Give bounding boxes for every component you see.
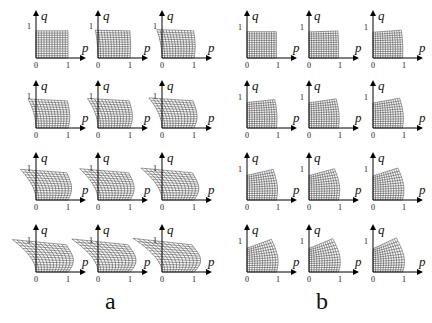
svg-text:1: 1 (89, 236, 93, 245)
svg-text:1: 1 (300, 23, 304, 32)
svg-text:0: 0 (160, 131, 164, 140)
svg-text:1: 1 (89, 22, 93, 31)
svg-text:1: 1 (153, 22, 157, 31)
svg-text:1: 1 (128, 61, 132, 70)
svg-text:p: p (354, 254, 362, 269)
svg-text:0: 0 (160, 203, 164, 212)
svg-text:p: p (143, 254, 151, 269)
svg-text:1: 1 (27, 92, 31, 101)
svg-text:1: 1 (153, 164, 157, 173)
svg-text:p: p (81, 182, 89, 197)
svg-text:1: 1 (192, 131, 196, 140)
svg-text:1: 1 (338, 203, 342, 212)
svg-text:1: 1 (128, 131, 132, 140)
svg-text:q: q (314, 78, 321, 93)
svg-text:p: p (81, 110, 89, 125)
svg-text:1: 1 (192, 275, 196, 284)
svg-text:0: 0 (307, 275, 311, 284)
svg-text:0: 0 (96, 61, 100, 70)
svg-text:p: p (418, 110, 426, 125)
svg-text:p: p (354, 182, 362, 197)
svg-text:q: q (378, 150, 385, 165)
svg-text:1: 1 (192, 203, 196, 212)
svg-text:q: q (378, 8, 385, 23)
svg-text:1: 1 (66, 131, 70, 140)
svg-text:1: 1 (276, 275, 280, 284)
svg-text:1: 1 (300, 165, 304, 174)
svg-text:q: q (167, 222, 174, 237)
svg-text:q: q (167, 8, 174, 23)
svg-text:p: p (207, 182, 215, 197)
svg-text:1: 1 (66, 61, 70, 70)
svg-text:1: 1 (364, 23, 368, 32)
svg-text:p: p (292, 254, 300, 269)
svg-text:p: p (143, 40, 151, 55)
svg-text:0: 0 (245, 61, 249, 70)
svg-text:0: 0 (96, 275, 100, 284)
svg-text:1: 1 (402, 203, 406, 212)
svg-text:1: 1 (27, 164, 31, 173)
svg-text:0: 0 (371, 61, 375, 70)
svg-text:1: 1 (276, 203, 280, 212)
svg-text:1: 1 (300, 93, 304, 102)
svg-text:1: 1 (89, 164, 93, 173)
figure: pq011pq011pq011pq011pq011pq011pq011pq011… (0, 0, 432, 323)
svg-text:q: q (314, 150, 321, 165)
svg-text:1: 1 (300, 237, 304, 246)
svg-text:q: q (41, 222, 48, 237)
svg-text:0: 0 (96, 203, 100, 212)
svg-text:p: p (207, 254, 215, 269)
svg-text:1: 1 (338, 61, 342, 70)
svg-text:1: 1 (153, 92, 157, 101)
svg-text:q: q (378, 222, 385, 237)
svg-text:1: 1 (27, 236, 31, 245)
svg-text:p: p (143, 110, 151, 125)
svg-text:q: q (252, 78, 259, 93)
svg-text:p: p (292, 110, 300, 125)
svg-text:0: 0 (245, 275, 249, 284)
svg-text:p: p (207, 40, 215, 55)
svg-text:0: 0 (34, 203, 38, 212)
svg-text:0: 0 (371, 275, 375, 284)
svg-text:p: p (81, 254, 89, 269)
svg-text:1: 1 (238, 93, 242, 102)
svg-text:p: p (81, 40, 89, 55)
svg-text:q: q (41, 150, 48, 165)
svg-text:p: p (418, 254, 426, 269)
svg-text:0: 0 (371, 131, 375, 140)
panel-label-a: a (105, 288, 116, 315)
svg-text:q: q (103, 222, 110, 237)
svg-text:1: 1 (153, 236, 157, 245)
grid-plots: pq011pq011pq011pq011pq011pq011pq011pq011… (0, 0, 432, 323)
svg-text:q: q (167, 150, 174, 165)
svg-text:q: q (252, 150, 259, 165)
svg-text:1: 1 (66, 275, 70, 284)
svg-text:1: 1 (364, 237, 368, 246)
svg-text:1: 1 (192, 61, 196, 70)
svg-text:q: q (378, 78, 385, 93)
svg-text:q: q (314, 8, 321, 23)
svg-text:0: 0 (34, 61, 38, 70)
svg-text:q: q (103, 8, 110, 23)
svg-text:1: 1 (364, 165, 368, 174)
svg-text:1: 1 (238, 237, 242, 246)
svg-text:p: p (207, 110, 215, 125)
svg-text:0: 0 (34, 275, 38, 284)
svg-text:0: 0 (160, 61, 164, 70)
svg-text:q: q (167, 78, 174, 93)
svg-text:1: 1 (238, 23, 242, 32)
svg-text:1: 1 (66, 203, 70, 212)
svg-text:1: 1 (89, 92, 93, 101)
svg-text:p: p (292, 182, 300, 197)
svg-text:1: 1 (338, 275, 342, 284)
svg-text:0: 0 (245, 203, 249, 212)
svg-text:1: 1 (338, 131, 342, 140)
svg-text:q: q (41, 78, 48, 93)
svg-text:1: 1 (364, 93, 368, 102)
svg-text:0: 0 (34, 131, 38, 140)
svg-text:q: q (314, 222, 321, 237)
svg-text:p: p (143, 182, 151, 197)
svg-text:0: 0 (307, 61, 311, 70)
svg-text:1: 1 (402, 275, 406, 284)
svg-text:q: q (103, 150, 110, 165)
